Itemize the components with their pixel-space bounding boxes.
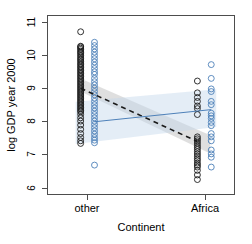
y-tick-label: 11 xyxy=(26,16,37,26)
data-point xyxy=(194,78,200,84)
y-tick-label: 8 xyxy=(26,118,37,124)
y-tick-label: 9 xyxy=(26,85,37,91)
x-tick-label: Africa xyxy=(191,202,219,214)
plot-canvas xyxy=(48,16,234,194)
data-point xyxy=(208,75,214,81)
data-point xyxy=(208,62,214,68)
y-tick-label: 6 xyxy=(26,185,37,191)
data-point xyxy=(92,162,98,168)
chart-figure: log GDP year 2000 Continent 67891011 oth… xyxy=(0,0,252,244)
y-tick-label: 7 xyxy=(26,152,37,158)
x-tick-mark xyxy=(87,195,88,200)
data-point xyxy=(78,29,84,35)
data-point xyxy=(208,164,214,170)
plot-area xyxy=(47,15,235,195)
x-tick-label: other xyxy=(74,202,99,214)
data-point xyxy=(194,177,200,183)
x-axis-title: Continent xyxy=(117,221,164,233)
y-axis-title: log GDP year 2000 xyxy=(5,58,17,151)
x-tick-mark xyxy=(205,195,206,200)
y-tick-label: 10 xyxy=(26,49,37,60)
series-group-b-africa xyxy=(208,62,214,170)
